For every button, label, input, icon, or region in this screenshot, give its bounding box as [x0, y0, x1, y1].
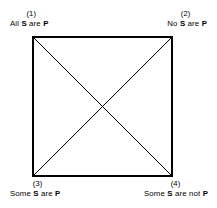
proposition-predicate-1: P	[43, 19, 48, 28]
proposition-prefix-3: Some	[10, 189, 33, 198]
square-outline	[32, 36, 173, 177]
proposition-predicate-4: P	[203, 189, 208, 198]
corner-index-1: (1)	[10, 9, 49, 19]
proposition-prefix-1: All	[10, 19, 21, 28]
corner-proposition-2: No S are P	[167, 19, 207, 29]
proposition-middle-2: are	[185, 19, 201, 28]
corner-label-top-left: (1) All S are P	[10, 9, 49, 29]
proposition-middle-4: are not	[173, 189, 203, 198]
corner-proposition-4: Some S are not P	[144, 189, 208, 199]
corner-proposition-3: Some S are P	[10, 189, 60, 199]
corner-index-4: (4)	[144, 179, 208, 189]
proposition-middle-1: are	[27, 19, 43, 28]
proposition-predicate-3: P	[55, 189, 60, 198]
corner-label-bottom-right: (4) Some S are not P	[144, 179, 208, 199]
proposition-predicate-2: P	[202, 19, 207, 28]
proposition-prefix-2: No	[167, 19, 180, 28]
corner-label-top-right: (2) No S are P	[167, 9, 207, 29]
corner-index-2: (2)	[167, 9, 207, 19]
proposition-prefix-4: Some	[144, 189, 167, 198]
corner-proposition-1: All S are P	[10, 19, 49, 29]
proposition-middle-3: are	[39, 189, 55, 198]
square-of-opposition-diagram: (1) All S are P (2) No S are P (3) Some …	[0, 0, 217, 208]
corner-label-bottom-left: (3) Some S are P	[10, 179, 60, 199]
corner-index-3: (3)	[10, 179, 60, 189]
